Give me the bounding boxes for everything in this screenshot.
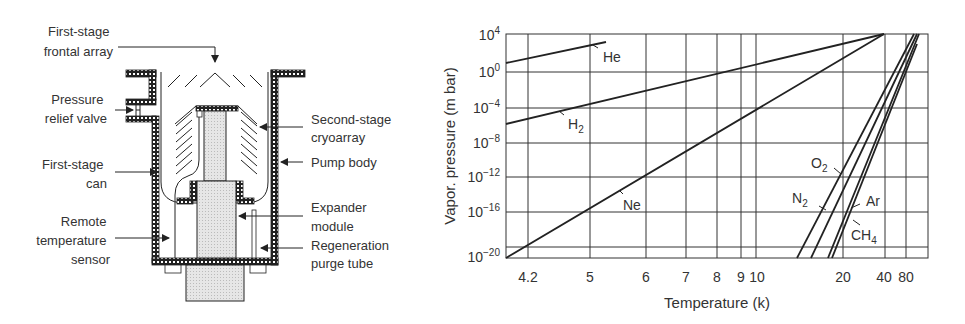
xtick-40: 40 [876,269,892,285]
xtick-80: 80 [898,269,914,285]
label-pump-body: Pump body [311,155,377,170]
xtick-20: 20 [835,269,851,285]
series-he [506,42,606,63]
ytick-1e-4: 10−4 [473,98,500,116]
label-ne: Ne [623,197,641,213]
xtick-6: 6 [642,269,650,285]
label-second-stage: Second-stage cryoarray [311,112,395,145]
regeneration-purge-tube [252,210,256,258]
expander-upper [204,111,226,181]
expander-base [186,265,244,301]
expander-module [197,181,236,258]
label-he: He [603,49,621,65]
label-expander: Expander module [311,200,370,234]
label-remote-sensor: Remote temperature sensor [36,214,110,267]
label-o2: O2 [811,155,828,174]
frontal-array [168,73,262,87]
y-axis-title: Vapor. pressure (m bar) [441,67,458,224]
ytick-1e-20: 10−20 [467,247,500,265]
cryopump-diagram: First-stage frontal array Pressure relie… [36,24,395,301]
series-ar [828,34,919,258]
label-first-stage-can: First-stage can [42,157,107,191]
vapor-pressure-chart: He H2 Ne O2 N2 Ar CH4 104 100 10−4 10−8 … [441,25,928,311]
frontal-array-arrow [118,47,215,62]
label-ch4: CH4 [851,227,877,246]
label-n2: N2 [792,190,808,209]
xtick-10: 10 [749,269,765,285]
label-relief-valve: Pressure relief valve [45,92,107,126]
series-n2 [797,34,914,258]
xtick-5: 5 [586,269,594,285]
label-regeneration: Regeneration purge tube [311,238,393,271]
ytick-1e0: 100 [479,62,501,80]
xtick-8: 8 [713,269,721,285]
label-h2: H2 [568,116,584,135]
xtick-9: 9 [737,269,745,285]
xtick-4-2: 4.2 [518,269,538,285]
label-frontal-array: First-stage frontal array [44,24,114,59]
x-axis-title: Temperature (k) [664,294,770,311]
label-ar: Ar [866,193,880,209]
series-ch4 [832,44,917,258]
ytick-1e-16: 10−16 [467,202,500,220]
ytick-1e-8: 10−8 [473,133,500,151]
figure: First-stage frontal array Pressure relie… [0,0,965,324]
series-h2 [506,34,884,124]
xtick-7: 7 [682,269,690,285]
ytick-1e4: 104 [479,25,501,43]
ytick-1e-12: 10−12 [467,167,500,185]
